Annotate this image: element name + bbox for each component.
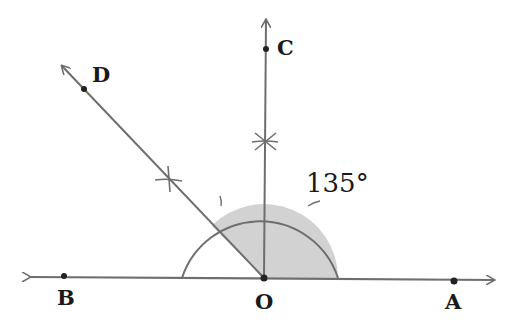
label-b: B xyxy=(57,285,75,310)
point-b xyxy=(61,273,67,279)
point-d xyxy=(81,86,87,92)
point-c xyxy=(263,46,269,52)
geometry-diagram: O A B C D 135° xyxy=(0,0,518,331)
angle-label: 135° xyxy=(306,168,369,198)
label-c: C xyxy=(277,35,294,60)
arc-tick-left xyxy=(220,196,221,206)
arc-tick-right xyxy=(308,201,320,206)
label-d: D xyxy=(92,62,110,87)
point-o xyxy=(261,275,268,282)
point-a xyxy=(451,278,458,285)
label-o: O xyxy=(255,289,273,314)
ray-od xyxy=(62,66,264,278)
angle-shaded-sector xyxy=(212,204,338,278)
label-a: A xyxy=(444,289,462,314)
